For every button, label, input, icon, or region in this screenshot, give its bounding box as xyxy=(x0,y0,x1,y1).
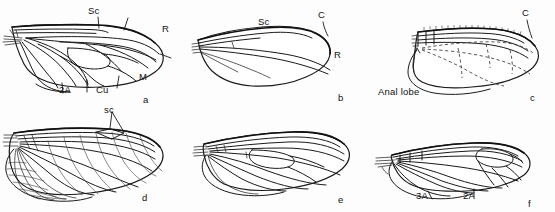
panel-c: C Anal lobe c xyxy=(370,0,555,110)
panel-letter-d: d xyxy=(142,193,147,203)
vein-label-3a: 3A xyxy=(416,191,428,201)
vein-label-sc: Sc xyxy=(88,6,100,16)
panel-d-drawing xyxy=(0,105,190,212)
panel-letter-a: a xyxy=(143,95,148,105)
panel-letter-f: f xyxy=(528,199,531,209)
vein-label-sc: Sc xyxy=(258,17,270,27)
panel-a-drawing xyxy=(0,0,190,110)
leader-c xyxy=(323,22,328,36)
panel-letter-c: c xyxy=(530,93,535,103)
vein-label-c: C xyxy=(522,8,529,18)
panel-b-drawing xyxy=(190,0,380,110)
wing-venation-figure: Sc R M Cu 2A a Sc C R b xyxy=(0,0,555,212)
vein-label-r: R xyxy=(334,50,341,60)
wing-outline xyxy=(413,28,538,88)
base-articulation xyxy=(382,167,388,174)
vein-label-cu: Cu xyxy=(96,85,109,95)
vein-label-2a: 2A xyxy=(463,191,475,201)
panel-b: Sc C R b xyxy=(190,0,380,110)
vein-label-r: R xyxy=(162,24,169,34)
vein-label-sc: sc xyxy=(104,105,114,115)
vein-label-c: C xyxy=(318,10,325,20)
leader-c xyxy=(527,20,532,38)
panel-e: e xyxy=(190,105,380,212)
panel-e-drawing xyxy=(190,105,380,212)
panel-f: 3A 2A f xyxy=(370,105,555,212)
panel-d: sc d xyxy=(0,105,190,212)
panel-letter-b: b xyxy=(338,93,343,103)
vein-label-2a: 2A xyxy=(59,85,71,95)
panel-a: Sc R M Cu 2A a xyxy=(0,0,190,110)
region-label-anal-lobe: Anal lobe xyxy=(378,87,419,97)
panel-letter-e: e xyxy=(338,195,343,205)
vein-label-m: M xyxy=(139,72,147,82)
